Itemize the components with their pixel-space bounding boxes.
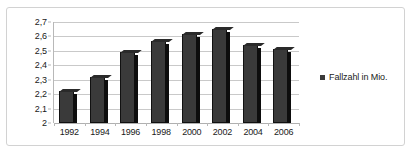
bar-front-face xyxy=(273,49,288,123)
bar-top-face xyxy=(182,32,204,35)
x-axis-tick xyxy=(177,123,178,126)
bar-top-face xyxy=(151,39,173,42)
bar[interactable] xyxy=(151,41,169,123)
y-axis-tick xyxy=(48,79,51,80)
bar-side-face xyxy=(104,80,108,123)
y-axis-tick xyxy=(48,94,51,95)
x-axis-tick xyxy=(238,123,239,126)
bar-top-face xyxy=(212,27,234,30)
bar[interactable] xyxy=(273,49,291,123)
bar[interactable] xyxy=(90,77,108,123)
x-axis-tick-label: 1992 xyxy=(54,127,85,137)
x-axis: 19921994199619982000200220042006 xyxy=(54,127,299,143)
x-axis-tick-label: 1998 xyxy=(146,127,177,137)
bar-front-face xyxy=(151,41,166,123)
plot-area xyxy=(54,22,299,123)
x-axis-tick-label: 1996 xyxy=(115,127,146,137)
bar-front-face xyxy=(243,45,258,123)
x-axis-tick xyxy=(146,123,147,126)
bar-front-face xyxy=(59,91,74,123)
bar-side-face xyxy=(287,52,291,123)
y-axis-tick xyxy=(48,50,51,51)
y-axis-tick-label: 2,4 xyxy=(35,60,47,70)
bar-side-face xyxy=(165,44,169,123)
bar-side-face xyxy=(257,48,261,123)
y-axis-tick-label: 2,2 xyxy=(35,89,47,99)
bar-front-face xyxy=(120,52,135,123)
bar-top-face xyxy=(243,43,265,46)
bar-front-face xyxy=(90,77,105,123)
bar[interactable] xyxy=(59,91,77,123)
chart-legend: Fallzahl in Mio. xyxy=(320,72,387,82)
bar-top-face xyxy=(273,47,295,50)
bar[interactable] xyxy=(120,52,138,123)
x-axis-tick-label: 1994 xyxy=(85,127,116,137)
bar-top-face xyxy=(90,75,112,78)
y-axis-tick xyxy=(48,123,51,124)
bar-top-face xyxy=(120,50,142,53)
x-axis-tick-label: 2004 xyxy=(238,127,269,137)
bar-front-face xyxy=(182,34,197,123)
chart-container: 2,72,62,52,42,32,22,12 19921994199619982… xyxy=(6,7,405,146)
y-axis-tick xyxy=(48,65,51,66)
bar-series xyxy=(54,22,299,123)
y-axis: 2,72,62,52,42,32,22,12 xyxy=(23,22,51,123)
x-axis-tick xyxy=(115,123,116,126)
y-axis-tick xyxy=(48,22,51,23)
bar[interactable] xyxy=(243,45,261,123)
x-axis-tick xyxy=(268,123,269,126)
bar-front-face xyxy=(212,29,227,123)
bar-side-face xyxy=(226,32,230,123)
bar[interactable] xyxy=(182,34,200,123)
x-axis-tick-label: 2000 xyxy=(177,127,208,137)
y-axis-tick-label: 2,3 xyxy=(35,75,47,85)
y-axis-tick xyxy=(48,36,51,37)
x-axis-tick-label: 2002 xyxy=(207,127,238,137)
y-axis-tick-label: 2,7 xyxy=(35,17,47,27)
bar[interactable] xyxy=(212,29,230,123)
bar-top-face xyxy=(59,89,81,92)
y-axis-tick-label: 2,5 xyxy=(35,46,47,56)
x-axis-tick xyxy=(299,123,300,126)
x-axis-tick xyxy=(85,123,86,126)
x-axis-tick xyxy=(207,123,208,126)
x-axis-tick xyxy=(54,123,55,126)
y-axis-tick-label: 2,1 xyxy=(35,104,47,114)
x-axis-tick-label: 2006 xyxy=(268,127,299,137)
bar-side-face xyxy=(196,37,200,123)
bar-side-face xyxy=(134,55,138,123)
y-axis-tick-label: 2 xyxy=(42,118,47,128)
bar-side-face xyxy=(73,94,77,123)
y-axis-tick-label: 2,6 xyxy=(35,31,47,41)
legend-entry-label: Fallzahl in Mio. xyxy=(329,72,387,82)
y-axis-tick xyxy=(48,108,51,109)
square-marker-icon xyxy=(320,75,325,80)
